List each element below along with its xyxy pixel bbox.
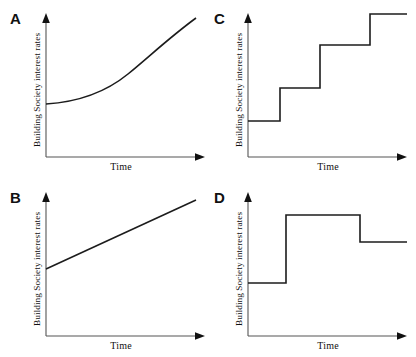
panel-b-xlabel: Time [110, 340, 132, 351]
panel-a-curve [46, 18, 196, 104]
panel-b-axes [42, 192, 205, 340]
panel-c-ylabel: Building Society interest rates [234, 33, 244, 147]
panel-c-axes [244, 13, 407, 161]
panel-c-xlabel: Time [317, 161, 339, 172]
figure-container: A Building Society interest rates Time B… [0, 0, 416, 357]
panel-c-steps [248, 14, 407, 121]
panel-b: B Building Society interest rates Time [0, 179, 208, 357]
panel-d-axes [244, 192, 407, 340]
panel-d-steps [248, 215, 407, 283]
panel-a-axes [42, 13, 205, 161]
panel-d-letter: D [214, 189, 225, 206]
panel-a-letter: A [10, 10, 21, 27]
panel-b-line [46, 200, 196, 269]
panel-d: D Building Society interest rates Time [208, 179, 416, 357]
panel-c: C Building Society interest rates Time [208, 0, 416, 178]
panel-b-letter: B [10, 189, 21, 206]
panel-a-ylabel: Building Society interest rates [32, 33, 42, 147]
panel-a: A Building Society interest rates Time [0, 0, 208, 178]
panel-c-letter: C [214, 10, 225, 27]
panel-d-ylabel: Building Society interest rates [234, 212, 244, 326]
panel-a-xlabel: Time [110, 161, 132, 172]
panel-b-ylabel: Building Society interest rates [32, 212, 42, 326]
panel-d-xlabel: Time [317, 340, 339, 351]
